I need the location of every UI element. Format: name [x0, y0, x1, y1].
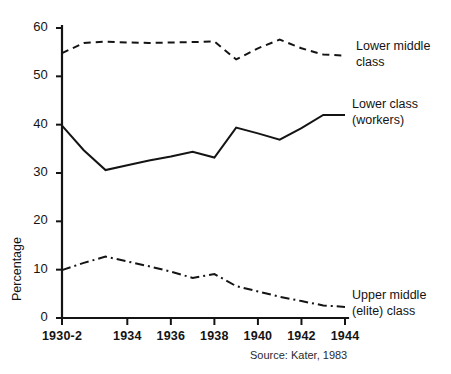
series-label-line-2: (workers) — [352, 113, 418, 129]
chart-figure: Percentage 01020304050601930-21934193619… — [0, 0, 451, 374]
y-axis-tick-label: 20 — [22, 212, 48, 227]
series-label-lower-class: Lower class (workers) — [352, 97, 418, 128]
y-axis-tick-label: 10 — [22, 261, 48, 276]
source-note: Source: Kater, 1983 — [250, 349, 347, 361]
series-label-line-2: (elite) class — [352, 304, 426, 320]
y-axis-tick-label: 30 — [22, 164, 48, 179]
series-line-lower-middle-class — [62, 40, 345, 60]
series-line-lower-class-workers — [62, 115, 345, 170]
series-label-line-2: class — [356, 55, 430, 71]
series-label-lower-middle-class: Lower middle class — [356, 39, 430, 70]
series-line-upper-middle-elite-class — [62, 257, 345, 307]
y-axis-tick-label: 60 — [22, 19, 48, 34]
y-axis-tick-label: 40 — [22, 116, 48, 131]
series-label-line-1: Upper middle — [352, 288, 426, 304]
series-label-line-1: Lower middle — [356, 39, 430, 55]
x-axis-tick-label: 1944 — [313, 329, 377, 343]
y-axis-tick-label: 0 — [22, 309, 48, 324]
x-axis-tick-label: 1930-2 — [30, 329, 94, 343]
y-axis-tick-label: 50 — [22, 67, 48, 82]
series-label-upper-middle-elite-class: Upper middle (elite) class — [352, 288, 426, 319]
series-label-line-1: Lower class — [352, 97, 418, 113]
